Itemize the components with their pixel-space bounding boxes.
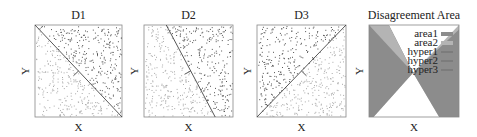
normal-vector (302, 71, 307, 76)
panel-title: D1 (71, 8, 86, 22)
legend-label-hyper3: hyper3 (407, 63, 438, 75)
x-axis-label: X (75, 121, 83, 133)
y-axis-label: Y (241, 67, 253, 75)
x-axis-label: X (185, 121, 193, 133)
y-axis-label: Y (19, 67, 31, 75)
panel-d3: D3XY (241, 8, 346, 133)
x-axis-label: X (410, 121, 418, 133)
disagreement-panel: Disagreement AreaXYarea1area2hyper1hyper… (353, 8, 461, 133)
x-axis-label: X (298, 121, 306, 133)
panel-title: D3 (294, 8, 309, 22)
y-axis-label: Y (353, 67, 365, 75)
legend-swatch-area2 (441, 41, 453, 45)
figure: D1XYD2XYD3XY Disagreement AreaXYarea1are… (0, 0, 477, 137)
y-axis-label: Y (128, 67, 140, 75)
panel-d2: D2XY (128, 8, 233, 133)
panel-d1: D1XY (19, 8, 122, 133)
legend-swatch-area1 (441, 32, 453, 36)
panel-title: Disagreement Area (368, 8, 461, 22)
panel-title: D2 (181, 8, 196, 22)
scatter-panels: D1XYD2XYD3XY (19, 8, 346, 133)
